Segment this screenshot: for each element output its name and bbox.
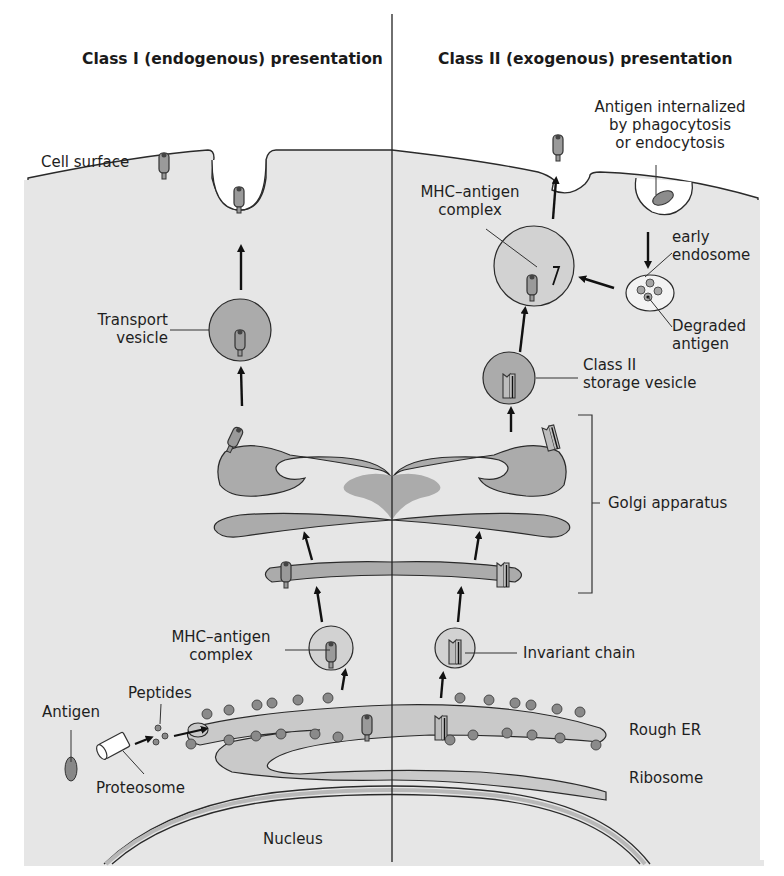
label-degraded-line2: antigen (672, 335, 746, 353)
label-early-endosome: early endosome (672, 228, 750, 264)
mhc-class2-golgi-bottom (497, 563, 509, 587)
label-antigen-internalized-line2: by phagocytosis (575, 116, 765, 134)
label-peptides: Peptides (128, 684, 192, 702)
label-antigen-internalized-line1: Antigen internalized (575, 98, 765, 116)
label-transport-line2: vesicle (90, 329, 168, 347)
mhc-class2-invariant (449, 640, 461, 664)
label-transport-line1: Transport (90, 311, 168, 329)
label-golgi-apparatus: Golgi apparatus (608, 494, 727, 512)
label-mhc-left-line2: complex (158, 646, 284, 664)
label-invariant-chain: Invariant chain (523, 644, 635, 662)
label-cell-surface: Cell surface (41, 153, 129, 171)
label-early-line2: endosome (672, 246, 750, 264)
label-nucleus: Nucleus (263, 830, 323, 848)
label-degraded-antigen: Degraded antigen (672, 317, 746, 353)
mhc-class2-surface (553, 135, 563, 162)
label-mhc-antigen-complex-right: MHC–antigen complex (410, 183, 530, 219)
label-rough-er: Rough ER (629, 721, 701, 739)
label-antigen-internalized-line3: or endocytosis (575, 134, 765, 152)
label-degraded-line1: Degraded (672, 317, 746, 335)
label-class2-storage-vesicle: Class II storage vesicle (583, 356, 696, 392)
class1-title: Class I (endogenous) presentation (82, 50, 383, 68)
label-mhc-right-line2: complex (410, 201, 530, 219)
label-storage-line2: storage vesicle (583, 374, 696, 392)
label-ribosome: Ribosome (629, 769, 703, 787)
label-storage-line1: Class II (583, 356, 696, 374)
mhc-class2-storage (503, 374, 515, 398)
label-mhc-left-line1: MHC–antigen (158, 628, 284, 646)
label-proteosome: Proteosome (96, 779, 185, 797)
label-mhc-antigen-complex-left: MHC–antigen complex (158, 628, 284, 664)
label-mhc-right-line1: MHC–antigen (410, 183, 530, 201)
label-early-line1: early (672, 228, 750, 246)
class2-title: Class II (exogenous) presentation (438, 50, 733, 68)
mhc-class2-er (435, 716, 447, 740)
label-antigen: Antigen (42, 703, 100, 721)
label-antigen-internalized: Antigen internalized by phagocytosis or … (575, 98, 765, 152)
label-transport-vesicle: Transport vesicle (90, 311, 168, 347)
